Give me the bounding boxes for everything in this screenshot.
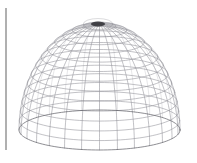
hemisphere-figure: wireframe hemisphere Gray wireframe mesh… — [0, 0, 197, 163]
figure-canvas: wireframe hemisphere Gray wireframe mesh… — [0, 0, 197, 163]
pole-cap — [91, 21, 105, 26]
